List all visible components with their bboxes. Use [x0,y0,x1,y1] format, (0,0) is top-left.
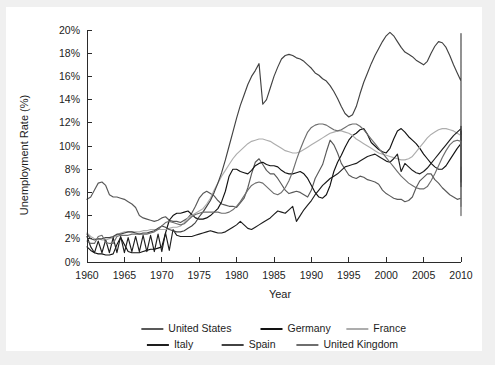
unemployment-rate-line-chart: 0%2%4%6%8%10%12%14%16%18%20% 19601965197… [6,7,482,351]
y-tick-label: 20% [59,24,80,36]
legend-label-united-kingdom[interactable]: United Kingdom [323,338,398,350]
legend-label-spain[interactable]: Spain [249,338,276,350]
screenshot-root: 0%2%4%6%8%10%12%14%16%18%20% 19601965197… [0,0,495,365]
series-line-spain [87,32,461,240]
x-tick-label: 2000 [375,269,399,281]
y-tick-label: 0% [65,256,80,268]
x-tick-label: 1985 [262,269,286,281]
chart-container: 0%2%4%6%8%10%12%14%16%18%20% 19601965197… [6,7,482,351]
x-tick-label: 2010 [449,269,473,281]
x-tick-label: 1990 [300,269,324,281]
x-tick-label: 1995 [337,269,361,281]
legend: United StatesGermanyFranceItalySpainUnit… [141,322,406,350]
x-tick-label: 2005 [412,269,436,281]
y-tick-label: 16% [59,70,80,82]
y-tick-label: 14% [59,93,80,105]
series-line-united-kingdom [87,124,461,243]
x-tick-label: 1960 [75,269,99,281]
y-tick-label: 2% [65,232,80,244]
y-axis-title: Unemployment Rate (%) [18,95,30,215]
axis-frame [87,30,461,262]
legend-label-italy[interactable]: Italy [174,338,194,350]
x-tick-label: 1970 [150,269,174,281]
y-tick-label: 18% [59,47,80,59]
x-tick-label: 1975 [188,269,212,281]
y-tick-label: 4% [65,209,80,221]
series-line-france [87,129,461,240]
y-tick-label: 6% [65,186,80,198]
series-lines [87,32,461,255]
series-line-united-states [87,140,461,222]
figure-card: 0%2%4%6%8%10%12%14%16%18%20% 19601965197… [6,7,482,351]
legend-label-france[interactable]: France [373,322,406,334]
y-tick-label: 10% [59,140,80,152]
y-tick-label: 8% [65,163,80,175]
x-axis-title: Year [269,288,292,300]
legend-label-germany[interactable]: Germany [288,322,332,334]
x-tick-label: 1980 [225,269,249,281]
x-axis-ticks: 1960196519701975198019851990199520002005… [75,257,473,281]
x-tick-label: 1965 [113,269,137,281]
y-tick-label: 12% [59,116,80,128]
legend-label-united-states[interactable]: United States [168,322,231,334]
